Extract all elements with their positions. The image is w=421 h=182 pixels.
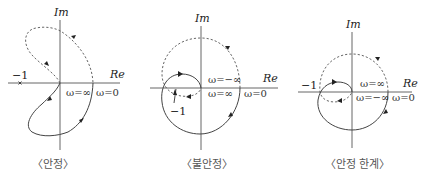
- omega-label-zero: ω=0: [96, 87, 119, 98]
- caption-marginal: 〈안정 한계〉: [325, 158, 391, 171]
- direction-arrow: [178, 71, 183, 77]
- caption-stable: 〈안정〉: [32, 158, 74, 171]
- re-axis-label: Re: [262, 72, 278, 85]
- nyquist-diagrams: Im Re −1 ω=∞ ω=0 〈안정〉 Im Re −: [0, 0, 421, 182]
- omega-label-zero: ω=0: [244, 88, 267, 99]
- omega-label-infinity: ω=∞: [208, 88, 233, 99]
- im-axis-label: Im: [345, 18, 361, 31]
- re-axis-label: Re: [109, 68, 125, 81]
- omega-label-infinity: ω=∞: [360, 78, 385, 89]
- critical-point-label: −1: [12, 69, 28, 82]
- panel-unstable: Im Re −1 ω=−∞ ω=∞ ω=0 〈불안정〉: [150, 12, 278, 171]
- nyquist-curve-negative-frequency: [26, 27, 93, 83]
- re-axis-label: Re: [402, 77, 418, 90]
- critical-point-label: −1: [301, 79, 317, 92]
- caption-unstable: 〈불안정〉: [181, 158, 233, 171]
- direction-arrow: [71, 35, 76, 39]
- im-axis-label: Im: [53, 6, 69, 19]
- critical-point-label: −1: [170, 105, 186, 118]
- direction-arrow: [173, 89, 177, 95]
- direction-arrow: [332, 79, 337, 85]
- omega-label-neg-infinity: ω=−∞: [356, 92, 389, 103]
- direction-arrow: [186, 94, 191, 99]
- direction-arrow: [228, 112, 233, 117]
- direction-arrow: [44, 61, 49, 66]
- omega-label-zero: ω=0: [392, 92, 415, 103]
- direction-arrow: [337, 98, 342, 103]
- direction-arrow: [375, 57, 380, 61]
- omega-label-infinity: ω=∞: [66, 87, 91, 98]
- panel-stable: Im Re −1 ω=∞ ω=0 〈안정〉: [8, 6, 125, 171]
- im-axis-label: Im: [194, 12, 210, 25]
- panel-marginal: Im Re −1 ω=∞ ω=−∞ ω=0 〈안정 한계〉: [298, 18, 418, 171]
- nyquist-curve-positive-frequency: [318, 82, 388, 130]
- omega-label-neg-infinity: ω=−∞: [208, 74, 241, 85]
